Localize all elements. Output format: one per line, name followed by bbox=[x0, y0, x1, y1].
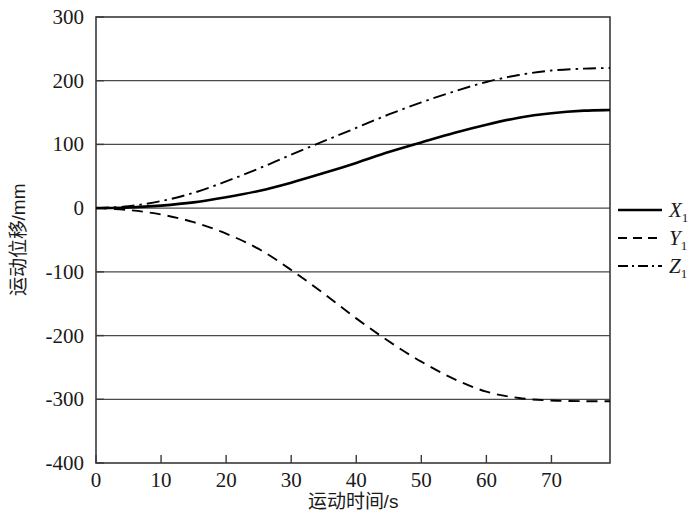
y-tick-label: -400 bbox=[46, 451, 85, 475]
data-series-group bbox=[96, 68, 610, 401]
legend-subscript: 1 bbox=[681, 266, 688, 281]
y-tick-label: 200 bbox=[53, 69, 85, 93]
legend-label-X1: X1 bbox=[668, 198, 688, 225]
y-axis-title: 运动位移/mm bbox=[8, 184, 29, 297]
x-tick-label: 10 bbox=[151, 468, 172, 492]
chart-figure: 010203040506070 3002001000-100-200-300-4… bbox=[0, 0, 689, 521]
x-axis-tick-labels: 010203040506070 bbox=[91, 468, 562, 492]
x-tick-label: 60 bbox=[476, 468, 497, 492]
x-tick-label: 30 bbox=[281, 468, 302, 492]
x-tick-label: 0 bbox=[91, 468, 102, 492]
gridlines bbox=[96, 81, 610, 400]
series-line-Y1 bbox=[96, 208, 610, 401]
x-axis-title: 运动时间/s bbox=[308, 491, 399, 512]
y-tick-label: -300 bbox=[46, 387, 85, 411]
legend-label-Y1: Y1 bbox=[669, 226, 687, 253]
x-tick-label: 20 bbox=[216, 468, 237, 492]
y-axis-ticks bbox=[96, 17, 104, 463]
y-tick-label: 300 bbox=[53, 5, 85, 29]
series-line-X1 bbox=[96, 110, 610, 208]
y-tick-label: -200 bbox=[46, 324, 85, 348]
y-tick-label: -100 bbox=[46, 260, 85, 284]
x-axis-ticks bbox=[96, 455, 551, 463]
legend-label-Z1: Z1 bbox=[669, 254, 687, 281]
y-tick-label: 0 bbox=[74, 196, 85, 220]
y-tick-label: 100 bbox=[53, 132, 85, 156]
line-chart: 010203040506070 3002001000-100-200-300-4… bbox=[0, 0, 689, 521]
chart-legend: X1Y1Z1 bbox=[618, 198, 688, 281]
x-tick-label: 40 bbox=[346, 468, 367, 492]
x-tick-label: 50 bbox=[411, 468, 432, 492]
series-line-Z1 bbox=[96, 68, 610, 208]
legend-subscript: 1 bbox=[682, 210, 689, 225]
y-axis-tick-labels: 3002001000-100-200-300-400 bbox=[46, 5, 85, 475]
legend-subscript: 1 bbox=[681, 238, 688, 253]
x-tick-label: 70 bbox=[541, 468, 562, 492]
plot-area-border bbox=[96, 17, 610, 463]
